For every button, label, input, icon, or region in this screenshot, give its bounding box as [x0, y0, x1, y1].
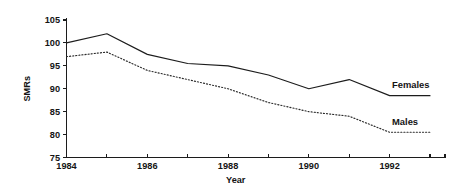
line-chart: 7580859095100105 19841986198819901992 Fe… — [0, 0, 472, 191]
y-axis-tick-group: 7580859095100105 — [45, 15, 67, 163]
y-axis-tick-label: 90 — [50, 84, 60, 94]
series-label-females: Females — [392, 79, 430, 90]
x-axis-tick-label: 1988 — [218, 161, 238, 171]
series-line-males — [67, 52, 431, 132]
series-line-females — [67, 34, 431, 96]
chart-container: 7580859095100105 19841986198819901992 Fe… — [0, 0, 472, 191]
y-axis-tick-label: 85 — [50, 107, 60, 117]
x-axis-tick-group: 19841986198819901992 — [56, 154, 445, 171]
x-axis-title: Year — [226, 175, 246, 185]
y-axis-tick-label: 80 — [50, 130, 60, 140]
x-axis-tick-label: 1990 — [299, 161, 319, 171]
y-axis-tick-label: 95 — [50, 61, 60, 71]
x-axis-tick-label: 1984 — [56, 161, 77, 171]
y-axis-title: SMRs — [22, 76, 32, 102]
y-axis-tick-label: 100 — [45, 38, 60, 48]
series-label-males: Males — [392, 116, 418, 127]
y-axis-tick-label: 105 — [45, 15, 60, 25]
x-axis-tick-label: 1992 — [379, 161, 399, 171]
x-axis-tick-label: 1986 — [137, 161, 157, 171]
